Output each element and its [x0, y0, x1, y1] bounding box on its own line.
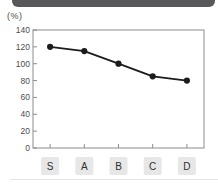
y-tick-label: 100: [16, 59, 30, 69]
y-tick-label: 40: [21, 109, 31, 119]
y-tick-label: 20: [21, 126, 31, 136]
x-category-label: B: [115, 161, 122, 172]
y-tick-label: 140: [16, 25, 30, 35]
x-category-label: S: [47, 161, 54, 172]
data-point: [150, 73, 156, 79]
data-point: [184, 77, 190, 83]
x-category-label: D: [183, 161, 190, 172]
y-tick-label: 80: [21, 76, 31, 86]
data-point: [81, 48, 87, 54]
chart-container: 020406080100120140SABCD: [0, 0, 218, 184]
y-tick-label: 60: [21, 92, 31, 102]
line-chart: 020406080100120140SABCD: [0, 0, 218, 184]
data-point: [47, 44, 53, 50]
y-tick-label: 0: [25, 143, 30, 153]
y-tick-label: 120: [16, 42, 30, 52]
x-category-label: C: [149, 161, 156, 172]
x-category-label: A: [81, 161, 88, 172]
data-point: [115, 61, 121, 67]
bottom-divider: [10, 179, 218, 180]
